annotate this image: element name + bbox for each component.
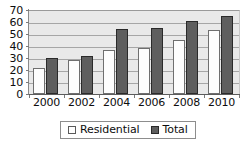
- y-tick-mark: [26, 70, 29, 71]
- y-tick-mark: [26, 82, 29, 83]
- y-axis: 010203040506070: [0, 0, 26, 104]
- x-tick-mark: [64, 95, 65, 98]
- x-tick-mark: [239, 95, 240, 98]
- bar-total-2000: [46, 58, 58, 94]
- y-tick-label: 20: [9, 65, 23, 76]
- y-tick-mark: [26, 22, 29, 23]
- x-tick-label: 2000: [29, 97, 64, 109]
- bar-group: [29, 10, 64, 94]
- y-tick-mark: [26, 10, 29, 11]
- x-tick-mark: [204, 95, 205, 98]
- x-tick-label: 2010: [204, 97, 239, 109]
- bar-residential-2008: [173, 40, 185, 94]
- plot-region: 010203040506070 200020022004200620082010: [0, 0, 243, 104]
- x-axis-line: [26, 94, 240, 95]
- legend-entry-total[interactable]: Total: [151, 124, 188, 135]
- y-tick-label: 0: [16, 89, 23, 100]
- x-tick-mark: [99, 95, 100, 98]
- y-tick-label: 30: [9, 53, 23, 64]
- bar-total-2010: [221, 16, 233, 94]
- bar-chart: 010203040506070 200020022004200620082010…: [0, 0, 243, 142]
- x-tick-label: 2004: [99, 97, 134, 109]
- y-tick-label: 50: [9, 29, 23, 40]
- bar-group: [64, 10, 99, 94]
- x-tick-mark: [29, 95, 30, 98]
- bar-group: [169, 10, 204, 94]
- legend-entry-residential[interactable]: Residential: [68, 124, 140, 135]
- bar-group: [134, 10, 169, 94]
- x-tick-label: 2006: [134, 97, 169, 109]
- bar-total-2006: [151, 28, 163, 94]
- legend-swatch-icon: [68, 126, 76, 134]
- bar-residential-2002: [68, 60, 80, 94]
- bar-total-2008: [186, 21, 198, 94]
- x-tick-mark: [134, 95, 135, 98]
- y-tick-label: 70: [9, 5, 23, 16]
- bar-residential-2010: [208, 30, 220, 94]
- bar-total-2004: [116, 29, 128, 94]
- x-tick-label: 2002: [64, 97, 99, 109]
- y-tick-label: 60: [9, 17, 23, 28]
- legend-label: Total: [163, 124, 188, 135]
- y-tick-mark: [26, 46, 29, 47]
- bars-layer: [29, 10, 239, 94]
- y-tick-mark: [26, 58, 29, 59]
- bar-group: [204, 10, 239, 94]
- bar-residential-2000: [33, 68, 45, 94]
- y-tick-label: 40: [9, 41, 23, 52]
- bar-total-2002: [81, 56, 93, 94]
- chart-legend: ResidentialTotal: [60, 121, 196, 139]
- y-tick-label: 10: [9, 77, 23, 88]
- legend-swatch-icon: [151, 126, 159, 134]
- x-tick-mark: [169, 95, 170, 98]
- bar-residential-2004: [103, 50, 115, 94]
- y-tick-mark: [26, 34, 29, 35]
- x-tick-label: 2008: [169, 97, 204, 109]
- y-tick-mark: [26, 94, 29, 95]
- bar-residential-2006: [138, 48, 150, 94]
- bar-group: [99, 10, 134, 94]
- legend-label: Residential: [80, 124, 140, 135]
- x-axis: 200020022004200620082010: [29, 97, 239, 112]
